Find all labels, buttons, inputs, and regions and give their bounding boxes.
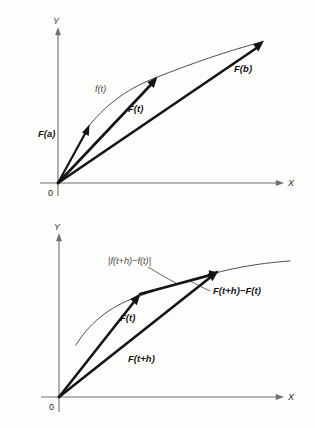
vector-figure-svg: Y X 0 f(t) F(a) F(t) F(b) [0,0,315,428]
upper-label-F-of-b: F(b) [234,63,252,74]
upper-y-axis-arrowhead [55,27,61,35]
upper-x-axis-label: X [287,178,295,188]
lower-origin-label: 0 [49,402,54,412]
upper-y-axis-label: Y [53,16,60,26]
lower-curve-f [76,261,290,345]
upper-label-F-of-t: F(t) [128,103,144,114]
lower-y-axis-arrowhead [56,233,62,241]
upper-panel-group: Y X 0 f(t) F(a) F(t) F(b) [38,16,295,198]
upper-vector-F-of-t-shaft [58,83,153,183]
upper-curve-label: f(t) [95,84,106,94]
lower-label-F-difference: F(t+h)−F(t) [213,285,261,296]
upper-vector-F-of-a-arrowhead [82,125,89,136]
lower-x-axis-arrowhead [276,394,284,400]
upper-label-F-of-a: F(a) [38,128,56,139]
lower-x-axis-label: X [287,392,295,402]
lower-label-arc-length: |f(t+h)−f(t)| [108,256,151,266]
lower-leader-arc-length [148,267,176,283]
lower-label-F-of-t-plus-h: F(t+h) [128,353,155,364]
figure-root: Y X 0 f(t) F(a) F(t) F(b) [0,0,315,428]
upper-curve-f-of-t [88,42,262,127]
upper-vector-F-of-b-shaft [58,47,258,183]
upper-x-axis-arrowhead [276,180,284,186]
lower-label-F-of-t: F(t) [120,312,136,323]
lower-panel-group: Y X 0 |f(t+h)−f(t)| F(t) F(t+h) F(t+h)−F… [41,222,295,412]
upper-origin-label: 0 [48,188,53,198]
lower-y-axis-label: Y [54,222,61,232]
